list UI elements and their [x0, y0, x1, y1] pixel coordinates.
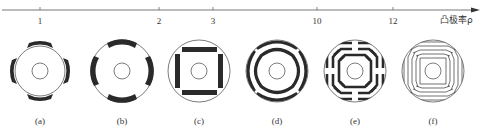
flux-barriers [248, 42, 306, 100]
rotor-figure-d [246, 40, 308, 102]
rotor-figure-b [90, 39, 154, 103]
rotor-figure-c [168, 40, 230, 102]
rotor-figure-e [324, 40, 386, 102]
saliency-axis: 1231012 凸极率ρ [2, 7, 480, 26]
rotor-figure-f [400, 38, 466, 104]
figure-captions: (a)(b)(c)(d)(e)(f) [35, 116, 438, 126]
rotor-figure-a [10, 41, 70, 101]
flux-barriers [327, 43, 383, 99]
caption-f: (f) [429, 116, 438, 126]
magnet-poles [90, 39, 154, 103]
caption-d: (d) [272, 116, 283, 126]
axis-tick-label: 3 [211, 16, 216, 26]
caption-b: (b) [117, 116, 128, 126]
magnet-bars [175, 47, 223, 95]
axis-tick-label: 2 [157, 16, 162, 26]
axis-tick-label: 1 [38, 16, 43, 26]
caption-a: (a) [35, 116, 45, 126]
axis-arrow-icon [471, 8, 480, 13]
magnet-poles [10, 41, 70, 101]
saliency-ratio-diagram: 1231012 凸极率ρ [0, 0, 482, 135]
axis-title: 凸极率ρ [440, 14, 473, 25]
caption-e: (e) [350, 116, 360, 126]
axis-tick-label: 10 [313, 16, 323, 26]
axis-tick-label: 12 [389, 16, 398, 26]
caption-c: (c) [194, 116, 204, 126]
